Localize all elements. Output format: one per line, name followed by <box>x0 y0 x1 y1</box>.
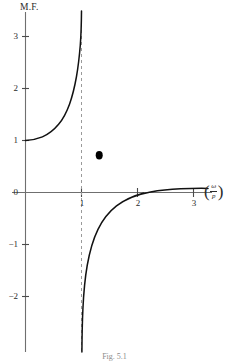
y-tick-label-3: 3 <box>2 32 18 41</box>
x-tick-label-3: 3 <box>187 199 201 208</box>
marked-data-point <box>96 151 103 159</box>
x-axis-title: ( ω p ) <box>204 183 223 200</box>
x-tick-label-1: 1 <box>75 199 89 208</box>
curve-branch-left <box>26 11 82 141</box>
x-axis-title-numerator: ω <box>211 183 216 190</box>
plot-area <box>0 0 229 362</box>
curve-branch-right <box>82 188 208 352</box>
x-tick-label-2: 2 <box>131 199 145 208</box>
y-tick-label-minus-2: −2 <box>0 292 18 301</box>
x-axis-title-fraction: ω p <box>210 183 218 200</box>
y-tick-label-1: 1 <box>2 136 18 145</box>
y-tick-label-minus-1: −1 <box>0 240 18 249</box>
x-axis-title-denominator: p <box>212 193 216 200</box>
figure-container: M.F. 3 2 1 0 −1 −2 1 2 3 ( ω <box>0 0 229 362</box>
x-axis-title-close-paren: ) <box>218 183 224 200</box>
y-tick-label-2: 2 <box>2 84 18 93</box>
figure-caption: Fig. 5.1 <box>0 352 229 362</box>
y-tick-label-0: 0 <box>2 188 18 197</box>
